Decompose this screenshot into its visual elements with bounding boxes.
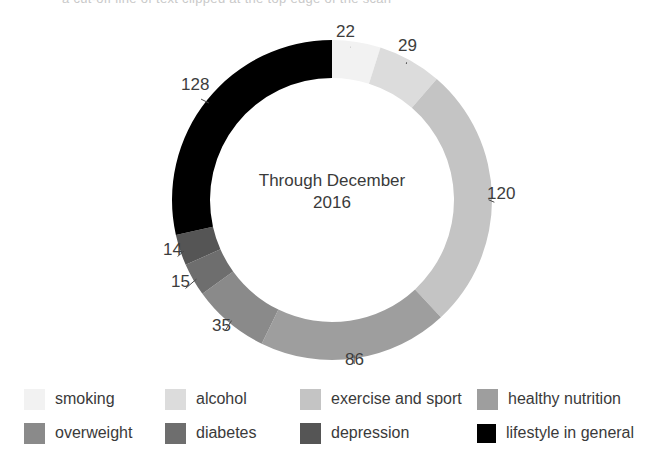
slice-value-label: 29: [398, 36, 417, 56]
legend-swatch: [477, 389, 498, 410]
slice-value-label: 120: [487, 184, 515, 204]
legend-item[interactable]: smoking: [24, 388, 115, 410]
legend-swatch: [477, 424, 496, 443]
legend-label: healthy nutrition: [508, 390, 621, 408]
legend-label: lifestyle in general: [506, 424, 634, 442]
legend-label: diabetes: [196, 424, 257, 442]
center-label-line1: Through December: [232, 170, 432, 192]
legend-label: smoking: [55, 390, 115, 408]
legend-label: depression: [331, 424, 409, 442]
legend-item[interactable]: alcohol: [165, 388, 247, 410]
legend-label: overweight: [55, 424, 132, 442]
slice-value-label: 14: [163, 240, 182, 260]
legend-row: overweightdiabetesdepressionlifestyle in…: [0, 422, 666, 450]
donut-chart: Through December 2016 222912086351514128: [0, 0, 666, 380]
legend-swatch: [24, 389, 45, 410]
legend-label: exercise and sport: [331, 390, 462, 408]
slice-value-label: 86: [345, 350, 364, 370]
legend: smokingalcoholexercise and sporthealthy …: [0, 386, 666, 456]
legend-row: smokingalcoholexercise and sporthealthy …: [0, 388, 666, 416]
center-label-line2: 2016: [232, 192, 432, 214]
center-label: Through December 2016: [232, 170, 432, 214]
legend-item[interactable]: overweight: [24, 422, 132, 444]
slice-value-label: 35: [212, 316, 231, 336]
legend-swatch: [300, 423, 321, 444]
legend-item[interactable]: exercise and sport: [300, 388, 462, 410]
legend-item[interactable]: diabetes: [165, 422, 257, 444]
legend-swatch: [165, 423, 186, 444]
slice-value-label: 15: [171, 272, 190, 292]
legend-item[interactable]: lifestyle in general: [477, 422, 634, 444]
legend-item[interactable]: healthy nutrition: [477, 388, 621, 410]
slice-value-label: 128: [181, 75, 209, 95]
legend-swatch: [165, 389, 186, 410]
legend-label: alcohol: [196, 390, 247, 408]
legend-swatch: [24, 423, 45, 444]
legend-item[interactable]: depression: [300, 422, 409, 444]
legend-swatch: [300, 389, 321, 410]
slice-value-label: 22: [336, 22, 355, 42]
